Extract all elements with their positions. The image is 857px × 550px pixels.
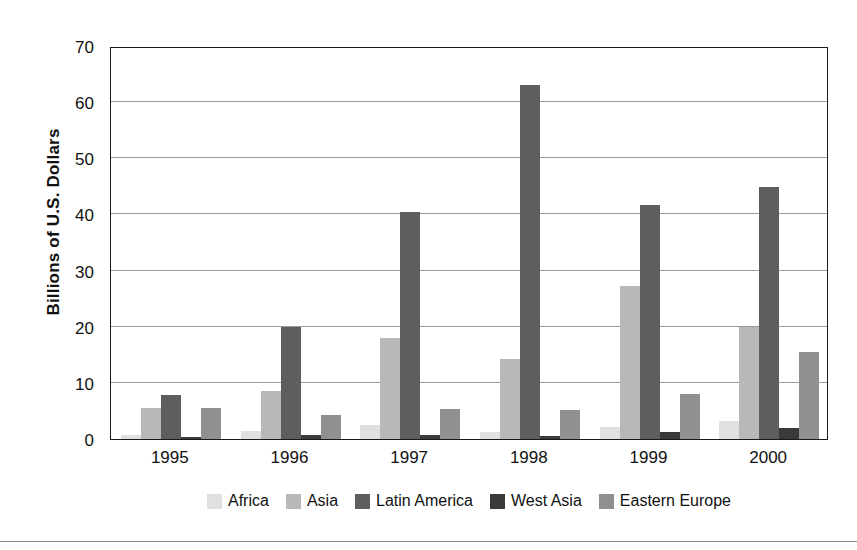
legend-item[interactable]: Africa bbox=[207, 492, 269, 510]
bar bbox=[201, 408, 221, 439]
bar bbox=[301, 435, 321, 439]
bar bbox=[440, 409, 460, 439]
bar-group bbox=[241, 48, 341, 439]
y-tick-label: 70 bbox=[75, 39, 94, 56]
legend-item[interactable]: Asia bbox=[286, 492, 338, 510]
bar bbox=[620, 286, 640, 439]
legend-swatch-icon bbox=[207, 494, 222, 509]
bar bbox=[161, 395, 181, 439]
legend-label: Latin America bbox=[376, 492, 473, 510]
bar-group bbox=[719, 48, 819, 439]
bar bbox=[380, 338, 400, 439]
bar bbox=[799, 352, 819, 439]
legend-swatch-icon bbox=[599, 494, 614, 509]
bar bbox=[779, 428, 799, 439]
bar bbox=[680, 394, 700, 439]
bar bbox=[241, 431, 261, 439]
legend-item[interactable]: Latin America bbox=[355, 492, 473, 510]
y-tick-label: 50 bbox=[75, 151, 94, 168]
legend-label: Eastern Europe bbox=[620, 492, 731, 510]
y-tick-label: 40 bbox=[75, 207, 94, 224]
x-tick-label: 2000 bbox=[749, 448, 787, 468]
bar bbox=[520, 85, 540, 439]
bar-group bbox=[480, 48, 580, 439]
bar bbox=[141, 408, 161, 439]
legend-label: West Asia bbox=[511, 492, 582, 510]
legend-item[interactable]: Eastern Europe bbox=[599, 492, 731, 510]
x-tick-label: 1995 bbox=[151, 448, 189, 468]
bar bbox=[660, 432, 680, 439]
legend-swatch-icon bbox=[355, 494, 370, 509]
plot-area bbox=[110, 47, 828, 440]
bar bbox=[420, 435, 440, 439]
bar bbox=[281, 327, 301, 439]
legend-item[interactable]: West Asia bbox=[490, 492, 582, 510]
x-tick-label: 1999 bbox=[630, 448, 668, 468]
y-tick-label: 60 bbox=[75, 95, 94, 112]
bottom-divider bbox=[0, 541, 857, 542]
y-tick-label: 10 bbox=[75, 375, 94, 392]
y-tick-label: 30 bbox=[75, 263, 94, 280]
bar bbox=[400, 212, 420, 439]
legend-swatch-icon bbox=[490, 494, 505, 509]
bar bbox=[600, 427, 620, 439]
x-tick-label: 1997 bbox=[390, 448, 428, 468]
legend-swatch-icon bbox=[286, 494, 301, 509]
chart-legend: AfricaAsiaLatin AmericaWest AsiaEastern … bbox=[110, 492, 828, 510]
bar bbox=[261, 391, 281, 439]
bar bbox=[759, 187, 779, 439]
y-axis-tick-labels: 010203040506070 bbox=[0, 47, 104, 440]
bar bbox=[121, 435, 141, 439]
bar-group bbox=[600, 48, 700, 439]
bar bbox=[640, 205, 660, 439]
bar bbox=[500, 359, 520, 439]
legend-label: Africa bbox=[228, 492, 269, 510]
bar bbox=[181, 437, 201, 439]
legend-label: Asia bbox=[307, 492, 338, 510]
bar bbox=[739, 327, 759, 439]
bar-group bbox=[121, 48, 221, 439]
y-tick-label: 0 bbox=[85, 432, 94, 449]
bar bbox=[719, 421, 739, 439]
y-tick-label: 20 bbox=[75, 319, 94, 336]
bar bbox=[560, 410, 580, 439]
bar bbox=[540, 436, 560, 439]
bar-chart-figure: Billions of U.S. Dollars 010203040506070… bbox=[0, 0, 857, 550]
bar bbox=[480, 432, 500, 439]
x-tick-label: 1996 bbox=[271, 448, 309, 468]
bar-series-container bbox=[111, 48, 827, 439]
bar bbox=[321, 415, 341, 439]
bar bbox=[360, 425, 380, 439]
bar-group bbox=[360, 48, 460, 439]
x-tick-label: 1998 bbox=[510, 448, 548, 468]
x-axis-tick-labels: 199519961997199819992000 bbox=[110, 448, 828, 476]
